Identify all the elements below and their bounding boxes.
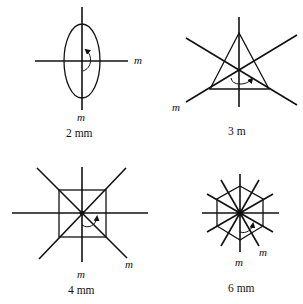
panel-2mm [35,7,128,110]
panel-caption: 6 mm [228,282,255,294]
mirror-label: m [235,256,243,268]
mirror-label: m [125,258,133,270]
mirror-label: m [77,111,85,123]
rotation-axis-dot [237,210,243,216]
symmetry-diagram: m m 2 mm m 3 m m m 4 mm m m 6 mm [0,0,303,304]
panel-3m [186,17,297,107]
mirror-label: m [77,268,85,280]
panel-caption: 2 mm [66,127,93,139]
mirror-label: m [259,246,267,258]
panel-6mm [202,174,279,252]
rotation-axis-dot [80,211,84,215]
mirror-label: m [172,101,180,113]
mirror-line-diagonal-b [186,35,297,102]
mirror-line-diagonal-a [186,38,297,105]
mirror-label: m [134,54,142,66]
rotation-arrow-icon [231,78,252,84]
panel-caption: 3 m [228,125,246,137]
panel-4mm [12,167,148,262]
panel-caption: 4 mm [68,284,95,296]
